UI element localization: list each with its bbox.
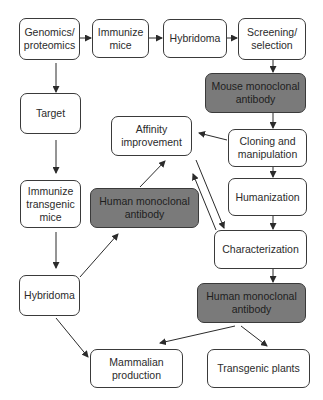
node-human-monoclonal-antibody-mid: Human monoclonal antibody <box>90 188 199 228</box>
node-transgenic-plants: Transgenic plants <box>207 349 310 388</box>
edge-humanmab-mammalian <box>160 326 235 343</box>
node-mouse-monoclonal-antibody: Mouse monoclonal antibody <box>205 73 306 113</box>
node-humanization: Humanization <box>228 178 307 216</box>
node-immunize-mice: Immunize mice <box>92 19 149 58</box>
node-characterization: Characterization <box>214 230 307 269</box>
node-hybridoma-left: Hybridoma <box>19 275 80 316</box>
node-hybridoma-top: Hybridoma <box>163 19 227 58</box>
node-cloning-manipulation: Cloning and manipulation <box>228 129 307 167</box>
edge-affinity-characterization <box>196 160 224 228</box>
node-screening-selection: Screening/ selection <box>238 18 306 60</box>
node-target: Target <box>20 93 81 134</box>
node-human-monoclonal-antibody-bottom: Human monoclonal antibody <box>197 283 306 323</box>
edge-hybridoma-humanmab <box>80 234 118 277</box>
edge-hybridoma-mammalian <box>56 318 88 357</box>
node-affinity-improvement: Affinity improvement <box>111 116 192 156</box>
node-genomics-proteomics: Genomics/ proteomics <box>19 18 80 60</box>
edge-humanmab-plants <box>241 326 267 346</box>
edge-cloning-affinity <box>199 133 227 140</box>
node-immunize-transgenic-mice: Immunize transgenic mice <box>20 180 81 228</box>
node-mammalian-production: Mammalian production <box>90 349 183 388</box>
edge-humanmab-affinity <box>140 161 165 187</box>
